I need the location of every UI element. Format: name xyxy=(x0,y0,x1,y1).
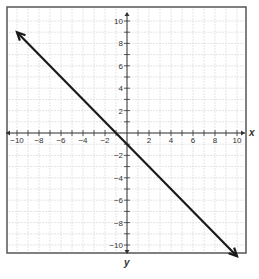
x-tick-label: 10 xyxy=(233,136,242,145)
x-tick-label: −8 xyxy=(34,136,44,145)
x-tick-label: 6 xyxy=(191,136,196,145)
y-axis-label: y xyxy=(123,257,130,268)
y-tick-label: −2 xyxy=(114,151,124,160)
x-tick-label: 2 xyxy=(147,136,152,145)
x-tick-label: 8 xyxy=(213,136,218,145)
x-axis-label: x xyxy=(248,127,255,138)
y-tick-label: −10 xyxy=(109,241,123,250)
y-tick-label: 8 xyxy=(119,39,124,48)
coordinate-plane: −10−8−6−4−2246810108642−2−4−6−8−10 x y xyxy=(0,0,259,279)
x-tick-label: −4 xyxy=(78,136,88,145)
y-tick-label: 4 xyxy=(119,84,124,93)
y-tick-label: −6 xyxy=(114,196,124,205)
y-tick-label: −4 xyxy=(114,174,124,183)
x-tick-label: −6 xyxy=(56,136,66,145)
y-tick-label: −8 xyxy=(114,219,124,228)
y-tick-label: 10 xyxy=(114,17,123,26)
axes xyxy=(6,12,245,254)
y-tick-label: 2 xyxy=(119,107,124,116)
x-tick-label: −10 xyxy=(10,136,24,145)
y-tick-label: 6 xyxy=(119,62,124,71)
x-tick-label: 4 xyxy=(169,136,174,145)
x-tick-label: −2 xyxy=(100,136,110,145)
